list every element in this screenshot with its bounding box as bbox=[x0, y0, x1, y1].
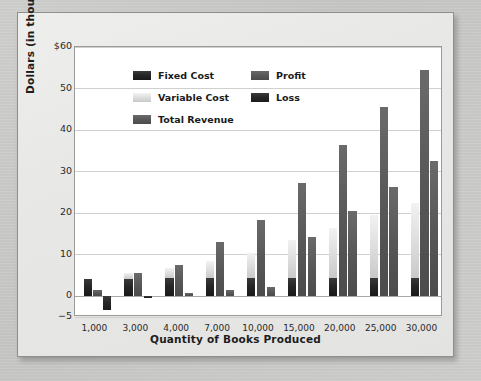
bar-profit bbox=[430, 161, 438, 296]
bar-cost-stacked bbox=[165, 268, 173, 296]
legend-label: Loss bbox=[276, 92, 300, 103]
x-tick-label: 30,000 bbox=[395, 323, 448, 333]
bar-total-revenue bbox=[380, 107, 388, 296]
y-tick-label: 10 bbox=[38, 249, 72, 259]
y-tick-label: 40 bbox=[38, 124, 72, 134]
segment-variable-cost bbox=[288, 240, 296, 277]
legend-label: Fixed Cost bbox=[158, 70, 214, 81]
segment-fixed-cost bbox=[370, 278, 378, 297]
legend-swatch bbox=[133, 93, 151, 102]
y-tick-label: $60 bbox=[38, 41, 72, 51]
legend-item: Loss bbox=[251, 92, 300, 103]
legend-label: Profit bbox=[276, 70, 306, 81]
segment-fixed-cost bbox=[165, 278, 173, 296]
chart-legend: Fixed CostVariable CostTotal RevenueProf… bbox=[133, 70, 348, 142]
bar-loss bbox=[144, 296, 152, 298]
segment-fixed-cost bbox=[84, 279, 92, 296]
bar-loss bbox=[103, 296, 111, 310]
bar-profit bbox=[185, 293, 193, 296]
legend-label: Total Revenue bbox=[158, 114, 234, 125]
y-tick-label: 0 bbox=[38, 290, 72, 300]
segment-fixed-cost bbox=[206, 278, 214, 296]
legend-swatch bbox=[251, 93, 269, 102]
bar-chart: Dollars (in thousands) $6050403020100−5 … bbox=[18, 13, 453, 356]
bar-cost-stacked bbox=[206, 261, 214, 296]
bar-profit bbox=[348, 211, 356, 296]
bar-cost-stacked bbox=[247, 253, 255, 297]
gridline bbox=[75, 317, 441, 318]
bar-cost-stacked bbox=[84, 279, 92, 296]
bar-total-revenue bbox=[298, 183, 306, 296]
bar-total-revenue bbox=[257, 220, 265, 296]
screenshot-page: Dollars (in thousands) $6050403020100−5 … bbox=[0, 0, 481, 381]
bar-profit bbox=[267, 287, 275, 297]
legend-item: Fixed Cost bbox=[133, 70, 214, 81]
segment-fixed-cost bbox=[288, 278, 296, 297]
bar-group bbox=[84, 47, 112, 315]
bar-cost-stacked bbox=[370, 215, 378, 296]
legend-swatch bbox=[133, 115, 151, 124]
segment-fixed-cost bbox=[247, 278, 255, 296]
y-tick-label: 20 bbox=[38, 207, 72, 217]
bar-total-revenue bbox=[339, 145, 347, 296]
segment-variable-cost bbox=[165, 268, 173, 278]
segment-variable-cost bbox=[247, 253, 255, 278]
y-tick-label: 50 bbox=[38, 83, 72, 93]
segment-variable-cost bbox=[206, 261, 214, 278]
y-tick-label: −5 bbox=[38, 311, 72, 321]
bar-profit bbox=[226, 290, 234, 296]
legend-item: Total Revenue bbox=[133, 114, 234, 125]
legend-item: Profit bbox=[251, 70, 306, 81]
bar-cost-stacked bbox=[329, 228, 337, 297]
segment-variable-cost bbox=[370, 215, 378, 277]
chart-card: Dollars (in thousands) $6050403020100−5 … bbox=[17, 12, 454, 357]
legend-swatch bbox=[251, 71, 269, 80]
segment-variable-cost bbox=[329, 228, 337, 278]
segment-fixed-cost bbox=[124, 279, 132, 296]
bar-cost-stacked bbox=[288, 240, 296, 296]
y-axis-ticks: $6050403020100−5 bbox=[26, 13, 72, 358]
x-axis-label: Quantity of Books Produced bbox=[18, 333, 453, 345]
legend-label: Variable Cost bbox=[158, 92, 229, 103]
bar-total-revenue bbox=[175, 265, 183, 296]
bar-profit bbox=[389, 187, 397, 297]
bar-cost-stacked bbox=[411, 203, 419, 296]
legend-swatch bbox=[133, 71, 151, 80]
bar-group bbox=[411, 47, 439, 315]
bar-profit bbox=[308, 237, 316, 296]
segment-fixed-cost bbox=[329, 278, 337, 297]
segment-variable-cost bbox=[411, 203, 419, 278]
bar-total-revenue bbox=[216, 242, 224, 296]
segment-fixed-cost bbox=[411, 278, 419, 297]
bar-total-revenue bbox=[93, 290, 101, 297]
bar-group bbox=[370, 47, 398, 315]
bar-cost-stacked bbox=[124, 273, 132, 296]
legend-item: Variable Cost bbox=[133, 92, 229, 103]
bar-total-revenue bbox=[420, 70, 428, 296]
y-tick-label: 30 bbox=[38, 166, 72, 176]
bar-total-revenue bbox=[134, 273, 142, 296]
